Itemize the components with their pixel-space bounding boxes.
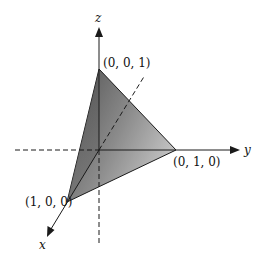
y-axis-arrow-icon	[230, 146, 240, 154]
vertex-y-label: (0, 1, 0)	[173, 155, 221, 169]
y-axis-label: y	[243, 143, 251, 157]
z-axis-arrow-icon	[95, 27, 103, 37]
triangle-plane-diagram: z y x (0, 0, 1) (0, 1, 0) (1, 0, 0)	[0, 0, 265, 262]
x-axis-arrow-icon	[47, 226, 55, 237]
vertex-x-label: (1, 0, 0)	[25, 195, 73, 209]
vertex-z-label: (0, 0, 1)	[103, 56, 151, 70]
x-axis-label: x	[39, 238, 46, 252]
z-axis-label: z	[94, 11, 102, 25]
